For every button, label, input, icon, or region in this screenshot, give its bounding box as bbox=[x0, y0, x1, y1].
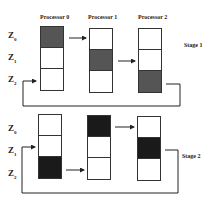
arrow-connectors bbox=[0, 0, 210, 202]
